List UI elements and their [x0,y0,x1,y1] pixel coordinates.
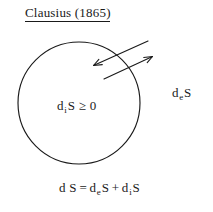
internal-entropy-rest: S ≥ 0 [68,98,97,113]
equation-term2-s: S [132,180,140,195]
internal-entropy-subscript: i [64,105,68,115]
equation-term1-d: d [87,180,96,195]
clausius-entropy-figure: Clausius (1865) diS ≥ 0 deS d S=deS+diS [0,0,213,212]
equation-lhs: d S [59,180,77,195]
equation-term1-subscript: e [96,187,101,197]
internal-entropy-d: d [57,98,64,113]
external-entropy-subscript: e [179,92,184,102]
external-entropy-label: deS [172,86,192,99]
equation-term2-d: d [119,180,128,195]
external-entropy-rest: S [184,85,192,100]
internal-entropy-label: diS ≥ 0 [57,99,97,112]
entropy-balance-equation: d S=deS+diS [59,181,140,194]
equation-term2-subscript: i [129,187,133,197]
figure-title: Clausius (1865) [25,6,111,19]
figure-title-underline [25,21,110,22]
external-entropy-d: d [172,85,179,100]
equation-equals: = [77,180,87,195]
equation-plus: + [109,180,119,195]
entropy-flow-out-arrow [104,57,153,80]
